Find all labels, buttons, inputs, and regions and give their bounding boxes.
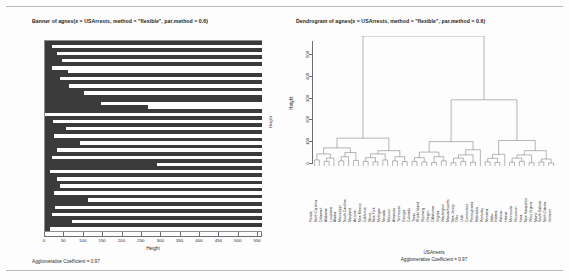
figure-page: Banner of agnes(x = USArrests, method = …: [0, 0, 569, 280]
banner-x-tick-label: 500: [234, 238, 241, 243]
dendrogram-tree: [312, 36, 556, 166]
dendrogram-leaf-label: Oregon: [426, 211, 430, 222]
dendrogram-leaf-label: Arkansas: [392, 208, 396, 222]
dendrogram-leaf-label: Indiana: [494, 211, 498, 222]
dendrogram-leaf-label: New York: [372, 208, 376, 222]
dendrogram-leaf-label: Alabama: [324, 209, 328, 222]
dendrogram-leaf-label: Colorado: [407, 208, 411, 222]
bottom-divider: [6, 270, 563, 271]
dendrogram-leaf-label: Maine: [534, 213, 538, 222]
dendrogram-leaf-label: Washington: [441, 204, 445, 222]
dendrogram-leaf-label: Nevada: [382, 210, 386, 222]
banner-x-tick: [238, 232, 239, 236]
dendrogram-leaf-label: Massachusetts: [446, 199, 450, 222]
dendrogram-panel: Dendrogram of agnes(x = USArrests, metho…: [284, 10, 569, 270]
dendrogram-leaf-label: Hawaii: [504, 212, 508, 222]
dendrogram-leaf-label: Louisiana: [329, 207, 333, 222]
dendrogram-leaf-label: Oklahoma: [431, 206, 435, 222]
dendrogram-leaf-label: Arizona: [353, 210, 357, 222]
dendrogram-y-tick-label: 400: [305, 73, 310, 80]
dendrogram-leaf-label: Michigan: [377, 208, 381, 222]
dendrogram-agglomerative-coefficient: Agglomerative Coefficient = 0.97: [312, 257, 556, 264]
dendrogram-leaf-label: Texas: [412, 213, 416, 222]
dendrogram-y-tick-label: 100: [305, 138, 310, 145]
dendrogram-leaf-label: South Carolina: [343, 200, 347, 222]
dendrogram-leaf-label: Rhode Island: [416, 202, 420, 222]
top-divider: [6, 6, 563, 7]
dendrogram-leaf-label: California: [363, 208, 367, 222]
dendrogram-leaf-label: Ohio: [455, 215, 459, 222]
dendrogram-leaf-label: Idaho: [490, 213, 494, 222]
dendrogram-leaf-label: Vermont: [548, 209, 552, 222]
dendrogram-leaf-label: North Dakota: [543, 202, 547, 222]
banner-x-tick-label: 450: [215, 238, 222, 243]
dendrogram-leaf-label: New Hampshire: [524, 198, 528, 222]
dendrogram-leaf-label: Montana: [485, 209, 489, 222]
dendrogram-y-tick-label: 300: [305, 95, 310, 102]
dendrogram-plot-area: [312, 36, 556, 166]
banner-x-axis-label: Height: [44, 246, 262, 251]
banner-x-tick-label: 150: [98, 238, 105, 243]
dendrogram-leaf-label: Maryland: [348, 208, 352, 222]
dendrogram-leaf-label: Delaware: [319, 208, 323, 222]
dendrogram-y-axis-label: Height: [289, 96, 294, 110]
dendrogram-leaf-label: Mississippi: [338, 206, 342, 222]
dendrogram-leaf-label: Missouri: [387, 209, 391, 222]
banner-x-tick-label: 300: [157, 238, 164, 243]
dendrogram-leaf-label: Florida: [309, 212, 313, 222]
dendrogram-leaf-label: Alaska: [333, 212, 337, 222]
banner-x-tick: [261, 232, 262, 236]
banner-x-tick-label: 100: [79, 238, 86, 243]
dendrogram-leaf-label: Iowa: [519, 215, 523, 222]
banner-row: [45, 227, 262, 231]
banner-x-tick-label: 200: [118, 238, 125, 243]
banner-x-tick: [180, 232, 181, 236]
dendrogram-leaf-label: Pennsylvania: [470, 202, 474, 222]
dendrogram-y-tick-label: 200: [305, 116, 310, 123]
banner-x-tick-label: 550: [253, 238, 260, 243]
banner-bar: [45, 227, 50, 231]
banner-x-tick: [122, 232, 123, 236]
banner-x-tick: [102, 232, 103, 236]
banner-agglomerative-coefficient: Agglomerative Coefficient = 0.97: [32, 259, 100, 264]
dendrogram-leaf-label: New Mexico: [358, 203, 362, 222]
banner-x-tick-label: 250: [137, 238, 144, 243]
dendrogram-leaf-labels: FloridaNorth CarolinaDelawareAlabamaLoui…: [312, 166, 556, 222]
banner-x-tick: [257, 232, 258, 236]
dendrogram-leaf-label: Minnesota: [509, 206, 513, 222]
dendrogram-leaf-label: Connecticut: [465, 204, 469, 222]
banner-x-tick: [141, 232, 142, 236]
dendrogram-footer: USArrests Agglomerative Coefficient = 0.…: [312, 250, 556, 263]
banner-plot-title: Banner of agnes(x = USArrests, method = …: [32, 18, 208, 24]
dendrogram-leaf-label: North Carolina: [314, 200, 318, 222]
banner-x-tick: [63, 232, 64, 236]
dendrogram-leaf-label: Kentucky: [480, 208, 484, 222]
banner-x-tick: [83, 232, 84, 236]
banner-x-tick-label: 0: [43, 238, 45, 243]
dendrogram-leaf-label: Wyoming: [421, 208, 425, 222]
dendrogram-leaf-label: Kansas: [499, 211, 503, 222]
dendrogram-leaf-label: Georgia: [402, 210, 406, 222]
banner-x-axis-line: [44, 236, 262, 237]
banner-x-tick: [199, 232, 200, 236]
dendrogram-leaf-label: West Virginia: [529, 202, 533, 222]
banner-plot-area: [44, 40, 262, 232]
banner-x-tick: [160, 232, 161, 236]
dendrogram-y-tick-label: 0: [305, 162, 310, 164]
banner-x-tick-label: 350: [176, 238, 183, 243]
banner-x-tick-label: 400: [195, 238, 202, 243]
dendrogram-leaf-label: Wisconsin: [514, 207, 518, 223]
banner-x-tick-label: 50: [61, 238, 66, 243]
banner-x-tick: [44, 232, 45, 236]
banner-x-tick: [218, 232, 219, 236]
banner-y-axis-label: Height: [268, 116, 273, 128]
dendrogram-leaf-label: Tennessee: [397, 206, 401, 222]
dendrogram-leaf-label: Nebraska: [475, 207, 479, 222]
dendrogram-leaf-label: New Jersey: [451, 204, 455, 222]
banner-plot-panel: Banner of agnes(x = USArrests, method = …: [0, 10, 285, 270]
dendrogram-leaf-label: Utah: [460, 215, 464, 222]
dendrogram-leaf-label: South Dakota: [538, 201, 542, 222]
dendrogram-title: Dendrogram of agnes(x = USArrests, metho…: [296, 18, 485, 24]
dendrogram-leaf-label: Virginia: [436, 211, 440, 222]
dendrogram-leaf-label: Illinois: [368, 213, 372, 222]
